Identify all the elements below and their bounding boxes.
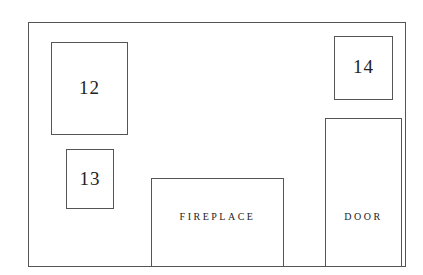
box-13[interactable]: 13	[66, 149, 114, 209]
fireplace[interactable]: FIREPLACE	[151, 178, 284, 267]
door[interactable]: DOOR	[325, 118, 402, 267]
box-14[interactable]: 14	[334, 36, 393, 100]
box-14-label: 14	[335, 56, 392, 78]
door-label: DOOR	[326, 211, 401, 222]
box-12[interactable]: 12	[51, 42, 128, 135]
box-13-label: 13	[67, 168, 113, 190]
fireplace-label: FIREPLACE	[152, 211, 283, 222]
box-12-label: 12	[52, 77, 127, 99]
